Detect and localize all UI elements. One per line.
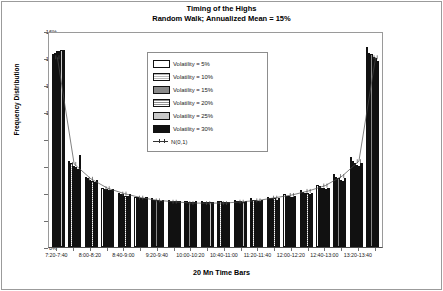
legend-label: Volatility = 20% <box>173 100 213 106</box>
chart-subtitle: Random Walk; Annualized Mean = 15% <box>0 14 443 24</box>
legend-label: N(0,1) <box>171 139 187 145</box>
legend-label: Volatility = 5% <box>173 61 210 67</box>
legend-label: Volatility = 30% <box>173 126 213 132</box>
legend-item: Volatility = 15% <box>153 83 262 96</box>
y-axis-title: Frequency Distribution <box>13 10 20 190</box>
x-axis-title: 20 Mn Time Bars <box>0 268 443 277</box>
legend-swatch <box>153 73 170 81</box>
legend-label: Volatility = 15% <box>173 87 213 93</box>
legend-swatch <box>153 125 170 133</box>
legend-item: Volatility = 5% <box>153 57 262 70</box>
legend-item: Volatility = 10% <box>153 70 262 83</box>
chart-legend: Volatility = 5%Volatility = 10%Volatilit… <box>147 52 268 152</box>
legend-line-marker-icon <box>153 139 168 145</box>
legend-swatch <box>153 112 170 120</box>
legend-item: Volatility = 25% <box>153 109 262 122</box>
chart-title-block: Timing of the Highs Random Walk; Annuali… <box>0 4 443 23</box>
legend-label: Volatility = 10% <box>173 74 213 80</box>
legend-item: Volatility = 20% <box>153 96 262 109</box>
legend-swatch <box>153 99 170 107</box>
legend-swatch <box>153 86 170 94</box>
chart-title: Timing of the Highs <box>0 4 443 14</box>
legend-item: N(0,1) <box>153 135 262 148</box>
chart-figure: Timing of the Highs Random Walk; Annuali… <box>0 0 443 291</box>
legend-item: Volatility = 30% <box>153 122 262 135</box>
y-axis-tick-mark <box>44 248 48 249</box>
legend-label: Volatility = 25% <box>173 113 213 119</box>
x-axis-tick-label: 13:20-13:40 <box>328 252 388 258</box>
legend-swatch <box>153 60 170 68</box>
